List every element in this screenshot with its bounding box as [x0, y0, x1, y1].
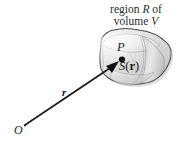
caption-line2-prefix: volume — [114, 15, 151, 27]
caption-line-2: volume V — [96, 15, 176, 27]
region-caption: region R of volume V — [96, 3, 176, 28]
origin-point-dot — [24, 125, 26, 127]
vector-shaft — [25, 66, 113, 125]
caption-line1-suffix: of — [149, 3, 161, 15]
label-point-p: P — [117, 41, 125, 55]
region-blob — [93, 29, 173, 87]
label-origin-o: O — [14, 124, 23, 137]
scalar-field-close-paren: ) — [135, 59, 139, 73]
caption-line1-prefix: region — [110, 3, 142, 15]
figure-canvas: region R of volume V P S(r) r O — [0, 0, 178, 149]
position-vector-arrow — [25, 61, 119, 125]
caption-symbol-V: V — [151, 15, 158, 27]
label-scalar-field: S(r) — [119, 60, 139, 74]
caption-line-1: region R of — [96, 3, 176, 15]
label-vector-r: r — [62, 87, 66, 99]
